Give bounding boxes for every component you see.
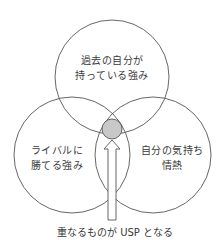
label-line: ライバルに	[22, 143, 92, 158]
label-passion: 自分の気持ち 情熱	[132, 143, 212, 173]
label-line: 過去の自分が	[72, 53, 152, 68]
arrow-icon	[104, 140, 120, 220]
label-past-strengths: 過去の自分が 持っている強み	[72, 53, 152, 83]
label-line: 持っている強み	[72, 68, 152, 83]
label-rival-strengths: ライバルに 勝てる強み	[22, 143, 92, 173]
venn-diagram	[0, 0, 224, 251]
label-line: 自分の気持ち	[132, 143, 212, 158]
label-line: 勝てる強み	[22, 158, 92, 173]
intersection-usp	[102, 119, 122, 139]
label-line: 情熱	[132, 158, 212, 173]
caption-usp: 重なるものが USP となる	[40, 224, 190, 239]
